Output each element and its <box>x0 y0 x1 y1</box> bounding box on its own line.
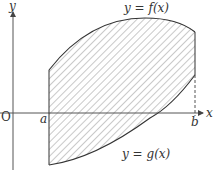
origin-label: O <box>1 110 11 124</box>
y-axis-label: y <box>8 0 16 13</box>
x-axis-label: x <box>206 106 213 120</box>
b-label: b <box>191 115 199 129</box>
g-curve-label: y = g(x) <box>121 147 171 161</box>
area-between-curves-diagram: y x O a b y = f(x) y = g(x) <box>0 0 214 172</box>
shaded-region <box>49 18 195 165</box>
a-label: a <box>40 112 47 126</box>
f-curve-label: y = f(x) <box>123 1 169 15</box>
